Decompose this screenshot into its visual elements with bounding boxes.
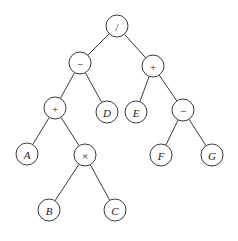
expression-tree-diagram: /−++DE−A×FGBC: [0, 0, 238, 241]
node-label: G: [208, 150, 216, 162]
tree-edge: [90, 165, 109, 201]
tree-edge: [60, 73, 74, 99]
node-label: A: [23, 149, 31, 161]
tree-node-add2: +: [142, 55, 164, 77]
node-label: D: [102, 107, 111, 119]
node-label: −: [77, 58, 83, 70]
tree-node-mul: ×: [74, 144, 96, 166]
tree-node-a: A: [16, 143, 38, 165]
tree-edge: [140, 76, 149, 101]
tree-nodes: /−++DE−A×FGBC: [16, 15, 223, 221]
tree-edge: [189, 119, 206, 146]
tree-edge: [159, 75, 177, 101]
tree-node-add1: +: [44, 97, 66, 119]
node-label: ×: [82, 150, 88, 162]
tree-node-b: B: [38, 199, 60, 221]
tree-edge: [124, 34, 145, 58]
tree-node-f: F: [150, 144, 172, 166]
node-label: +: [150, 61, 156, 73]
tree-node-e: E: [125, 101, 147, 123]
node-label: −: [180, 105, 186, 117]
tree-edge: [166, 120, 178, 145]
tree-node-d: D: [96, 101, 118, 123]
tree-node-c: C: [104, 199, 126, 221]
node-label: C: [111, 205, 119, 217]
node-label: +: [52, 103, 58, 115]
tree-edge: [61, 117, 79, 145]
tree-edge: [88, 34, 109, 55]
tree-edge: [55, 164, 79, 201]
tree-node-g: G: [201, 144, 223, 166]
node-label: E: [132, 107, 140, 119]
node-label: B: [46, 205, 53, 217]
tree-node-div: /: [106, 15, 128, 37]
tree-node-sub2: −: [172, 99, 194, 121]
tree-edge: [85, 73, 101, 103]
node-label: F: [157, 150, 165, 162]
tree-edge: [33, 117, 50, 144]
tree-node-sub1: −: [69, 52, 91, 74]
